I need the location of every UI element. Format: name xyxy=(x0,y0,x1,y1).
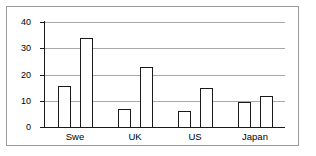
y-tick-label: 0 xyxy=(7,123,31,132)
x-tick-label: Swe xyxy=(66,131,84,143)
y-tick-mark xyxy=(40,75,44,76)
bar xyxy=(200,88,213,128)
bar xyxy=(58,86,71,128)
bar xyxy=(260,96,273,128)
x-tick-label: UK xyxy=(128,131,141,143)
x-tick-label: Japan xyxy=(242,131,268,143)
y-tick-mark xyxy=(40,48,44,49)
y-tick-mark xyxy=(40,127,44,128)
y-tick-mark xyxy=(40,22,44,23)
y-tick-mark xyxy=(40,101,44,102)
plot-area xyxy=(45,22,285,127)
x-tick-label: US xyxy=(188,131,201,143)
bar xyxy=(80,38,93,128)
bar xyxy=(140,67,153,128)
y-tick-label: 10 xyxy=(7,97,31,106)
y-tick-label: 30 xyxy=(7,44,31,53)
bar-chart-figure: 010203040 SweUKUSJapan xyxy=(0,0,316,156)
bar xyxy=(118,109,131,128)
bar xyxy=(238,102,251,128)
bar xyxy=(178,111,191,128)
y-tick-label: 40 xyxy=(7,18,31,27)
y-tick-label: 20 xyxy=(7,71,31,80)
